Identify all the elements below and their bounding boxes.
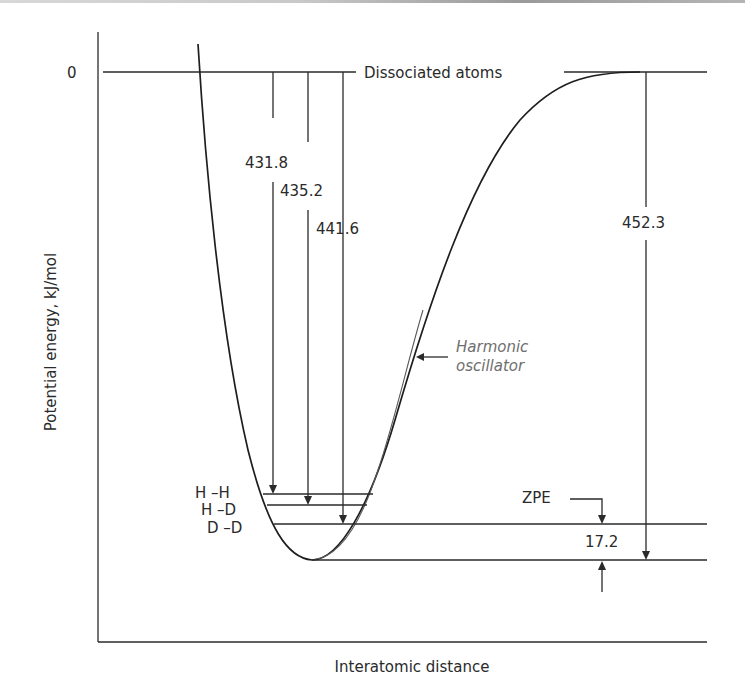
well-depth-label: 452.3 xyxy=(622,214,665,232)
zpe-arrowhead-top xyxy=(598,515,606,524)
y-axis-label: Potential energy, kJ/mol xyxy=(42,253,60,431)
harmonic-pointer-arrowhead xyxy=(416,353,424,361)
arrow-h-h-head xyxy=(269,485,277,494)
dissociated-atoms-label: Dissociated atoms xyxy=(364,64,502,82)
value-label-d-d: 441.6 xyxy=(316,220,359,238)
arrow-h-d-head xyxy=(304,496,312,505)
harmonic-label-line1: Harmonic xyxy=(456,338,529,356)
harmonic-label-line2: oscillator xyxy=(456,357,525,375)
y-tick-zero: 0 xyxy=(67,64,77,82)
value-label-h-d: 435.2 xyxy=(280,182,323,200)
arrow-d-d-head xyxy=(339,515,347,524)
zpe-value-label: 17.2 xyxy=(585,533,618,551)
potential-energy-diagram: 0 Dissociated atoms 431.8 435.2 441.6 45… xyxy=(0,0,745,691)
arrow-well-depth-head xyxy=(642,551,650,560)
molecule-label-h-d: H –D xyxy=(201,501,236,519)
zpe-pointer-top xyxy=(570,499,602,518)
potential-curve xyxy=(198,44,640,560)
zpe-arrowhead-bottom xyxy=(598,561,606,570)
zpe-label: ZPE xyxy=(522,489,551,507)
value-label-h-h: 431.8 xyxy=(245,154,288,172)
harmonic-oscillator-curve xyxy=(312,310,423,560)
x-axis-label: Interatomic distance xyxy=(335,658,490,676)
molecule-label-h-h: H –H xyxy=(195,484,230,502)
molecule-label-d-d: D –D xyxy=(207,519,242,537)
